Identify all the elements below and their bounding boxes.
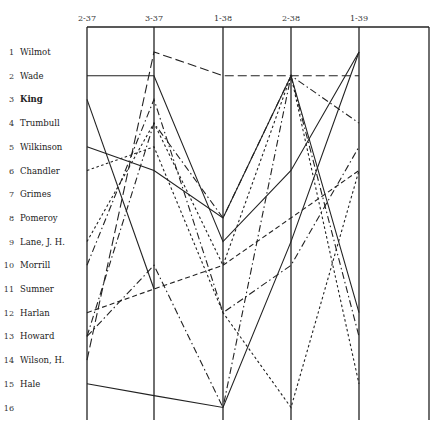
column-label: 1-39 bbox=[350, 14, 368, 23]
row-number: 16 bbox=[4, 404, 14, 413]
row-name: Morrill bbox=[20, 260, 50, 270]
row-number: 9 bbox=[9, 238, 14, 247]
row-name: Grimes bbox=[20, 189, 51, 199]
column-label: 3-37 bbox=[145, 14, 163, 23]
parallel-rank-chart: 2-373-371-382-381-39 1Wilmot2Wade3King4T… bbox=[0, 0, 444, 431]
row-number: 4 bbox=[9, 119, 14, 128]
row-name: Harlan bbox=[20, 308, 50, 318]
row-name: Hale bbox=[20, 379, 40, 389]
column-label: 2-37 bbox=[78, 14, 96, 23]
row-name: Wilmot bbox=[20, 47, 51, 57]
row-name: Sumner bbox=[20, 284, 55, 294]
row-name: Lane, J. H. bbox=[20, 237, 65, 247]
row-number: 5 bbox=[9, 143, 14, 152]
row-name: Howard bbox=[20, 331, 55, 341]
row-name: Chandler bbox=[20, 166, 61, 176]
row-number: 14 bbox=[4, 356, 14, 365]
row-number: 15 bbox=[4, 380, 14, 389]
row-name: Trumbull bbox=[20, 118, 60, 128]
row-name: King bbox=[20, 94, 43, 104]
row-number: 8 bbox=[9, 214, 14, 223]
row-number: 1 bbox=[9, 48, 14, 57]
column-label: 2-38 bbox=[282, 14, 300, 23]
row-name: Wilson, H. bbox=[20, 355, 65, 365]
row-name: Wilkinson bbox=[20, 142, 63, 152]
row-number: 2 bbox=[9, 72, 14, 81]
row-number: 11 bbox=[4, 285, 14, 294]
row-number: 7 bbox=[9, 190, 14, 199]
series-line-solid-b bbox=[87, 99, 154, 289]
column-label: 1-38 bbox=[214, 14, 232, 23]
row-number: 13 bbox=[4, 332, 14, 341]
row-number: 10 bbox=[4, 261, 14, 270]
row-name: Pomeroy bbox=[20, 213, 58, 223]
row-name: Wade bbox=[20, 71, 44, 81]
row-number: 3 bbox=[9, 95, 14, 104]
row-number: 6 bbox=[9, 167, 14, 176]
row-number: 12 bbox=[4, 309, 14, 318]
